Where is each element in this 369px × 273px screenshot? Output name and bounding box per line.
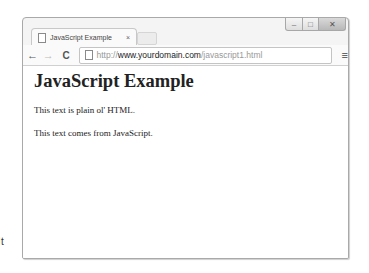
url-path: /javascript1.html xyxy=(201,50,262,60)
javascript-paragraph: This text comes from JavaScript. xyxy=(34,128,153,138)
url-scheme: http:// xyxy=(97,50,118,60)
back-arrow-icon[interactable]: ← xyxy=(26,49,39,61)
hamburger-menu-icon[interactable]: ≡ xyxy=(342,49,348,61)
tab-title: JavaScript Example xyxy=(50,34,126,41)
page-content: JavaScript Example This text is plain ol… xyxy=(23,66,348,258)
tab-javascript-example[interactable]: JavaScript Example × xyxy=(31,28,137,46)
page-heading: JavaScript Example xyxy=(34,71,194,92)
stray-cropped-text: t xyxy=(1,236,4,247)
reload-icon[interactable]: C xyxy=(60,50,73,61)
browser-toolbar: ← → C http://www.yourdomain.com/javascri… xyxy=(23,45,348,66)
page-favicon-icon xyxy=(38,33,46,43)
html-paragraph: This text is plain ol' HTML. xyxy=(34,105,135,115)
address-bar[interactable]: http://www.yourdomain.com/javascript1.ht… xyxy=(79,47,332,64)
page-icon xyxy=(85,50,93,60)
url-host: www.yourdomain.com xyxy=(118,50,201,60)
tab-close-icon[interactable]: × xyxy=(126,34,130,41)
forward-arrow-icon[interactable]: → xyxy=(42,49,55,61)
tab-strip: JavaScript Example × xyxy=(23,26,348,45)
browser-window: – □ ✕ JavaScript Example × ← → C http://… xyxy=(22,17,349,259)
new-tab-button[interactable] xyxy=(137,32,157,45)
